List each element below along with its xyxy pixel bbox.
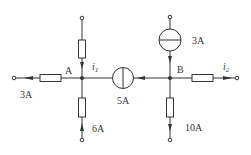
b-bottom-resistor [167,98,174,117]
circuit-diagram: A 3A i1 6A 5A 3A B i2 10A [0,0,251,155]
3a-source-label: 3A [192,35,205,46]
node-a-label: A [65,65,73,76]
b-bottom-terminal [168,138,172,142]
right-resistor [192,75,213,82]
3a-arrow-icon [168,56,172,63]
left-resistor [40,75,61,82]
i1-arrow-icon [80,62,84,69]
a-bottom-resistor [79,98,86,117]
10a-label: 10A [185,122,203,133]
node-b-dot [168,76,172,80]
6a-arrow-icon [80,123,84,131]
5a-label: 5A [117,95,130,106]
a-top-terminal [80,16,84,20]
left-terminal [12,76,16,80]
6a-label: 6A [92,123,105,134]
i1-label: i1 [92,61,98,74]
left-arrow-icon [24,76,33,80]
right-terminal [235,76,239,80]
node-b-label: B [177,64,184,75]
node-a-dot [80,76,84,80]
b-top-terminal [168,15,172,19]
i2-arrow-icon [223,76,232,80]
5a-arrow-icon [137,76,145,80]
a-bottom-terminal [80,138,84,142]
left-current-label: 3A [20,89,33,100]
10a-arrow-icon [168,124,172,131]
i2-label: i2 [223,61,230,74]
a-top-resistor [79,40,86,58]
